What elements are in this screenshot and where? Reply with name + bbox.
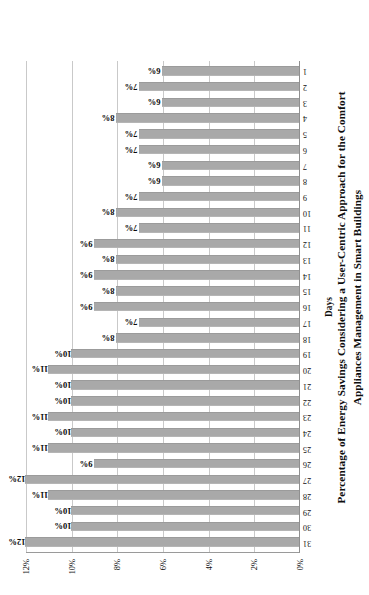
bar[interactable]	[25, 537, 299, 546]
x-tick-label: 29	[303, 507, 311, 516]
x-tick-label: 24	[303, 429, 311, 438]
x-tick-label: 18	[303, 334, 311, 343]
bar[interactable]	[162, 98, 299, 107]
x-tick-label: 26	[303, 460, 311, 469]
chart-figure-rotator: 0%2%4%6%8%10%12% 12%10%10%11%12%9%11%10%…	[0, 0, 369, 595]
bar[interactable]	[71, 380, 299, 389]
bar-value-label: 6%	[148, 97, 161, 107]
bar[interactable]	[48, 365, 299, 374]
x-tick-label: 9	[303, 192, 307, 201]
bar-slot: 9%	[26, 267, 299, 283]
x-tick-label: 30	[303, 523, 311, 532]
bar-value-label: 6%	[148, 160, 161, 170]
bar-slot: 7%	[26, 314, 299, 330]
bar-value-label: 8%	[102, 113, 115, 123]
plot-area: 12%10%10%11%12%9%11%10%11%10%10%11%10%8%…	[26, 61, 300, 553]
bar-value-label: 7%	[125, 145, 138, 155]
bar[interactable]	[71, 349, 299, 358]
x-tick-label: 5	[303, 130, 307, 139]
bar-value-label: 10%	[54, 427, 71, 437]
bar[interactable]	[71, 428, 299, 437]
x-tick-slot: 11	[302, 221, 322, 237]
chart-title-line-2: Appliances Management in Smart Buildings	[350, 48, 365, 547]
bar[interactable]	[162, 176, 299, 185]
bar[interactable]	[25, 475, 299, 484]
x-tick-label: 17	[303, 318, 311, 327]
bar[interactable]	[139, 129, 299, 138]
x-tick-label: 6	[303, 145, 307, 154]
bar-slot: 10%	[26, 424, 299, 440]
x-tick-slot: 8	[302, 173, 322, 189]
x-tick-slot: 16	[302, 299, 322, 315]
bar-slot: 12%	[26, 534, 299, 550]
bar-value-label: 10%	[54, 521, 71, 531]
bar-slot: 8%	[26, 252, 299, 268]
bar-value-label: 9%	[79, 459, 92, 469]
bar-slot: 8%	[26, 205, 299, 221]
bar[interactable]	[162, 161, 299, 170]
bar[interactable]	[48, 490, 299, 499]
bar-value-label: 11%	[31, 443, 48, 453]
y-tick-label: 10%	[67, 559, 76, 574]
x-tick-slot: 17	[302, 315, 322, 331]
bar[interactable]	[116, 286, 299, 295]
x-tick-slot: 12	[302, 236, 322, 252]
bar-slot: 10%	[26, 346, 299, 362]
bar-value-label: 12%	[8, 474, 25, 484]
bar[interactable]	[94, 270, 300, 279]
x-tick-slot: 19	[302, 346, 322, 362]
x-tick-slot: 22	[302, 394, 322, 410]
bar-value-label: 7%	[125, 82, 138, 92]
x-tick-slot: 31	[302, 535, 322, 551]
bar-value-label: 12%	[8, 537, 25, 547]
bar[interactable]	[71, 396, 299, 405]
bar-slot: 7%	[26, 79, 299, 95]
plot-area-wrapper: 0%2%4%6%8%10%12% 12%10%10%11%12%9%11%10%…	[26, 61, 326, 581]
bar[interactable]	[139, 192, 299, 201]
bar-slot: 12%	[26, 471, 299, 487]
bar[interactable]	[94, 459, 300, 468]
bar[interactable]	[116, 113, 299, 122]
bar[interactable]	[139, 318, 299, 327]
x-tick-slot: 6	[302, 142, 322, 158]
bar-value-label: 10%	[54, 396, 71, 406]
y-axis-tick-labels: 0%2%4%6%8%10%12%	[26, 555, 300, 581]
bar-series: 12%10%10%11%12%9%11%10%11%10%10%11%10%8%…	[26, 61, 299, 552]
bar[interactable]	[48, 443, 299, 452]
bar-slot: 9%	[26, 456, 299, 472]
x-tick-label: 7	[303, 161, 307, 170]
bar-slot: 6%	[26, 157, 299, 173]
bar-slot: 8%	[26, 110, 299, 126]
x-tick-slot: 15	[302, 284, 322, 300]
x-tick-slot: 29	[302, 504, 322, 520]
y-tick-label: 4%	[204, 559, 213, 570]
bar-value-label: 10%	[54, 380, 71, 390]
y-tick-label: 6%	[159, 559, 168, 570]
bar-slot: 7%	[26, 189, 299, 205]
bar-slot: 6%	[26, 173, 299, 189]
bar[interactable]	[71, 506, 299, 515]
bar[interactable]	[94, 239, 300, 248]
bar[interactable]	[139, 145, 299, 154]
bar-value-label: 9%	[79, 239, 92, 249]
bar-value-label: 10%	[54, 506, 71, 516]
x-axis-tick-labels: 3130292827262524232221201918171615141312…	[302, 61, 322, 553]
bar-slot: 6%	[26, 63, 299, 79]
bar-value-label: 8%	[102, 207, 115, 217]
bar[interactable]	[71, 522, 299, 531]
bar-slot: 11%	[26, 362, 299, 378]
bar-value-label: 11%	[31, 490, 48, 500]
bar[interactable]	[116, 255, 299, 264]
bar[interactable]	[94, 302, 300, 311]
bar-value-label: 6%	[148, 176, 161, 186]
bar[interactable]	[116, 208, 299, 217]
x-tick-label: 2	[303, 82, 307, 91]
bar[interactable]	[139, 82, 299, 91]
x-tick-label: 3	[303, 98, 307, 107]
bar[interactable]	[139, 223, 299, 232]
bar[interactable]	[162, 66, 299, 75]
x-tick-slot: 27	[302, 472, 322, 488]
bar[interactable]	[116, 333, 299, 342]
bar[interactable]	[48, 412, 299, 421]
bar-slot: 10%	[26, 393, 299, 409]
